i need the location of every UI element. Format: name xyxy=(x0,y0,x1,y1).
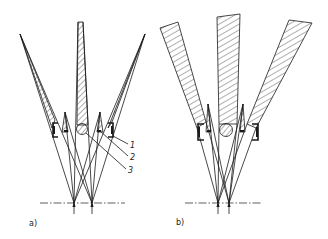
panel-label-a: a) xyxy=(29,219,37,228)
callout-leaders-a xyxy=(86,131,128,169)
panel-label-b: b) xyxy=(176,218,184,227)
rod-circle-b xyxy=(220,124,233,137)
optical-diagram: 1 2 3 a) xyxy=(0,0,328,239)
callout-3: 3 xyxy=(128,166,133,175)
center-beam-a xyxy=(74,22,92,203)
callout-2: 2 xyxy=(130,153,135,162)
panel-b: b) xyxy=(160,14,312,227)
panel-a: 1 2 3 a) xyxy=(20,22,145,228)
bracket-left-a xyxy=(53,123,58,137)
callout-1: 1 xyxy=(130,141,135,150)
rod-circle-a xyxy=(77,124,88,135)
